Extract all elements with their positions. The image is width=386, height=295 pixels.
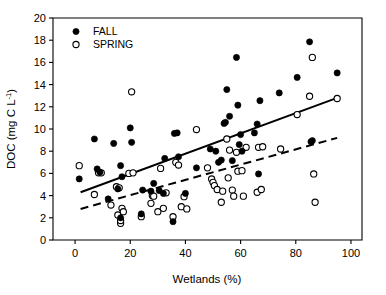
data-point-spring [309,54,315,60]
data-point-spring [130,170,136,176]
data-point-fall [309,138,315,144]
data-point-fall [117,215,123,221]
data-point-fall [162,155,168,161]
data-point-spring [240,193,246,199]
y-tick-label: 16 [34,56,46,68]
plot-background [53,18,362,240]
y-axis-ticks: 02468101214161820 [34,12,53,246]
y-tick-label: 2 [40,212,46,224]
data-point-fall [255,171,261,177]
data-point-spring [160,205,166,211]
data-point-fall [129,139,135,145]
data-point-fall [151,180,157,186]
legend-label-fall: FALL [93,25,118,37]
data-point-fall [140,187,146,193]
x-tick-label: 60 [234,247,246,259]
data-point-spring [76,163,82,169]
data-point-spring [218,199,224,205]
y-tick-label: 6 [40,167,46,179]
svg-text:DOC (mg C L-1): DOC (mg C L-1) [4,89,17,169]
data-point-fall [174,130,180,136]
x-axis-ticks: 020406080100 [72,240,360,259]
y-tick-label: 8 [40,145,46,157]
data-point-fall [175,154,181,160]
data-point-fall [111,140,117,146]
data-point-fall [117,163,123,169]
data-point-spring [229,187,235,193]
y-tick-label: 14 [34,79,46,91]
y-tick-label: 10 [34,123,46,135]
y-axis-title-superscript: -1 [4,93,13,100]
x-tick-label: 0 [72,247,78,259]
data-point-spring [120,209,126,215]
data-point-spring [224,136,230,142]
data-point-spring [184,206,190,212]
x-tick-label: 80 [290,247,302,259]
data-point-spring [231,193,237,199]
data-point-fall [238,131,244,137]
data-point-fall [218,157,224,163]
data-point-fall [170,219,176,225]
data-point-fall [213,148,219,154]
data-point-spring [239,168,245,174]
y-axis-title-base: DOC (mg C L [5,99,17,169]
data-point-fall [254,121,260,127]
data-point-spring [204,165,210,171]
data-point-fall [257,98,263,104]
data-point-fall [306,39,312,45]
data-point-fall [334,70,340,76]
data-point-fall [182,190,188,196]
data-point-spring [334,95,340,101]
y-axis-title-tail: ) [5,89,17,93]
chart-canvas: 02468101214161820 020406080100 FALLSPRIN… [0,0,386,295]
data-point-fall [138,211,144,217]
data-point-fall [235,102,241,108]
data-point-spring [157,165,163,171]
data-point-fall [294,74,300,80]
data-point-spring [294,111,300,117]
y-tick-label: 4 [40,190,46,202]
data-point-spring [148,200,154,206]
legend-label-spring: SPRING [93,38,133,50]
data-point-spring [258,186,264,192]
legend-marker-fall [73,28,79,34]
y-tick-label: 0 [40,234,46,246]
data-point-spring [312,199,318,205]
data-point-fall [127,125,133,131]
data-point-fall [233,54,239,60]
data-point-fall [119,174,125,180]
data-point-fall [193,165,199,171]
data-point-fall [148,188,154,194]
legend-marker-spring [73,41,79,47]
data-point-spring [306,93,312,99]
data-point-spring [226,147,232,153]
data-point-fall [251,130,257,136]
y-axis-title: DOC (mg C L-1) [4,89,17,169]
data-point-fall [276,90,282,96]
data-point-fall [91,136,97,142]
data-point-spring [225,175,231,181]
data-point-fall [97,169,103,175]
data-point-fall [239,148,245,154]
x-tick-label: 20 [124,247,136,259]
data-point-fall [226,113,232,119]
y-tick-label: 12 [34,101,46,113]
data-point-spring [278,146,284,152]
data-point-spring [91,191,97,197]
data-point-spring [108,202,114,208]
data-point-spring [311,171,317,177]
y-tick-label: 20 [34,12,46,24]
data-point-fall [236,141,242,147]
data-point-spring [175,162,181,168]
y-tick-label: 18 [34,34,46,46]
data-point-fall [160,190,166,196]
data-point-fall [222,119,228,125]
data-point-fall [105,196,111,202]
data-point-spring [220,188,226,194]
data-point-fall [229,158,235,164]
data-point-fall [115,186,121,192]
scatter-plot-figure: 02468101214161820 020406080100 FALLSPRIN… [0,0,386,295]
data-point-spring [129,89,135,95]
x-tick-label: 40 [179,247,191,259]
data-point-spring [260,144,266,150]
